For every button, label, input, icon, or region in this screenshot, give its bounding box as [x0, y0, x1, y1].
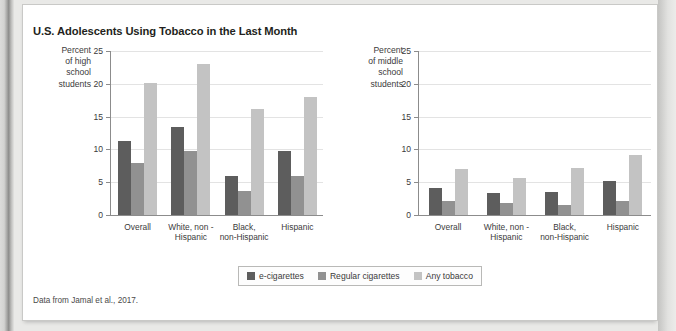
x-axis-group-label-line: Hispanic [259, 222, 335, 232]
page-spine [0, 0, 14, 331]
y-axis-title-line: school [341, 67, 403, 78]
x-axis-group-label-line: non-Hispanic [527, 232, 603, 242]
bar-group: Black,non-Hispanic [536, 51, 594, 215]
legend-swatch-icon [247, 272, 255, 280]
bar-group-bars [477, 51, 535, 215]
bar-group: Black,non-Hispanic [218, 51, 271, 215]
bar-group: Hispanic [271, 51, 324, 215]
bar-group-bars [164, 51, 217, 215]
bar-group: White, non -Hispanic [477, 51, 535, 215]
axis-baseline [111, 215, 323, 216]
y-axis-title-line: students [341, 79, 403, 90]
legend-label: e-cigarettes [259, 271, 304, 281]
bar-ms-3-series-1 [616, 201, 629, 215]
bar-hs-3-series-1 [291, 176, 304, 215]
bar-hs-1-series-2 [197, 64, 210, 215]
bar-group-bars [536, 51, 594, 215]
y-axis-title-middle-school: Percentof middleschoolstudents [341, 45, 403, 90]
bar-hs-3-series-2 [304, 97, 317, 215]
y-axis-tick-label: 15 [401, 112, 411, 122]
bar-ms-2-series-0 [545, 192, 558, 215]
bar-group: White, non -Hispanic [164, 51, 217, 215]
y-axis-tick-label: 25 [401, 46, 411, 56]
plot-area-high-school: 0510152025OverallWhite, non -HispanicBla… [110, 51, 323, 215]
bar-hs-2-series-2 [251, 109, 264, 215]
chart-middle-school: Percentof middleschoolstudents 051015202… [341, 41, 658, 266]
legend-label: Regular cigarettes [330, 271, 400, 281]
bar-ms-1-series-1 [500, 203, 513, 215]
bar-hs-2-series-0 [225, 176, 238, 215]
figure-title: U.S. Adolescents Using Tobacco in the La… [33, 25, 297, 37]
bar-ms-1-series-2 [513, 178, 526, 215]
y-axis-tick [414, 215, 419, 216]
y-axis-tick-label: 0 [98, 210, 103, 220]
y-axis-tick [106, 215, 111, 216]
y-axis-title-line: students [29, 79, 91, 90]
legend-item-1: Regular cigarettes [318, 271, 400, 281]
x-axis-group-label-line: Hispanic [585, 222, 658, 232]
y-axis-tick-label: 10 [401, 144, 411, 154]
bar-hs-1-series-0 [171, 127, 184, 215]
legend-swatch-icon [318, 272, 326, 280]
y-axis-tick-label: 5 [98, 177, 103, 187]
bar-hs-3-series-0 [278, 151, 291, 215]
y-axis-tick-label: 10 [93, 144, 103, 154]
y-axis-title-line: of middle [341, 56, 403, 67]
y-axis-title-line: of high [29, 56, 91, 67]
y-axis-tick-label: 15 [93, 112, 103, 122]
y-axis-title-line: school [29, 67, 91, 78]
x-axis-group-label-line: non-Hispanic [206, 232, 282, 242]
bar-group: Overall [111, 51, 164, 215]
y-axis-tick-label: 5 [406, 177, 411, 187]
y-axis-tick-label: 20 [93, 79, 103, 89]
legend-item-2: Any tobacco [414, 271, 473, 281]
bar-hs-0-series-2 [144, 83, 157, 216]
axis-baseline [419, 215, 651, 216]
bar-ms-1-series-0 [487, 193, 500, 215]
page-right-edge [658, 0, 676, 331]
bar-ms-2-series-2 [571, 168, 584, 215]
y-axis-title-high-school: Percentof highschoolstudents [29, 45, 91, 90]
figure-panel: U.S. Adolescents Using Tobacco in the La… [22, 4, 658, 321]
bar-ms-0-series-0 [429, 188, 442, 215]
bar-group-bars [111, 51, 164, 215]
legend-swatch-icon [414, 272, 422, 280]
bar-ms-0-series-1 [442, 201, 455, 215]
y-axis-title-line: Percent [29, 45, 91, 56]
y-axis-title-line: Percent [341, 45, 403, 56]
figure-page: U.S. Adolescents Using Tobacco in the La… [0, 0, 676, 331]
bar-ms-2-series-1 [558, 205, 571, 215]
y-axis-tick-label: 0 [406, 210, 411, 220]
bar-group-bars [271, 51, 324, 215]
chart-high-school: Percentof highschoolstudents 0510152025O… [29, 41, 329, 266]
bar-group-bars [419, 51, 477, 215]
bar-group: Hispanic [594, 51, 652, 215]
x-axis-group-label: Hispanic [259, 222, 335, 232]
bar-hs-0-series-0 [118, 141, 131, 215]
bar-ms-3-series-0 [603, 181, 616, 215]
legend-label: Any tobacco [426, 271, 473, 281]
bar-group: Overall [419, 51, 477, 215]
figure-source: Data from Jamal et al., 2017. [33, 296, 138, 305]
bar-hs-2-series-1 [238, 191, 251, 215]
plot-area-middle-school: 0510152025OverallWhite, non -HispanicBla… [418, 51, 651, 215]
legend-item-0: e-cigarettes [247, 271, 304, 281]
bar-group-bars [218, 51, 271, 215]
bar-group-bars [594, 51, 652, 215]
bar-hs-1-series-1 [184, 151, 197, 215]
bar-ms-3-series-2 [629, 155, 642, 215]
chart-legend: e-cigarettesRegular cigarettesAny tobacc… [238, 266, 482, 286]
bar-hs-0-series-1 [131, 163, 144, 215]
bar-ms-0-series-2 [455, 169, 468, 215]
y-axis-tick-label: 20 [401, 79, 411, 89]
y-axis-tick-label: 25 [93, 46, 103, 56]
x-axis-group-label: Hispanic [585, 222, 658, 232]
